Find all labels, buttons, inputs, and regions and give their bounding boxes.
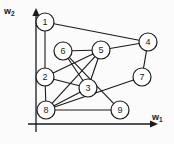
graph-node-6[interactable]: 6 xyxy=(54,42,72,60)
node-label-3: 3 xyxy=(85,83,90,93)
x-axis-label: w1 xyxy=(152,112,163,123)
graph-edge-4-7 xyxy=(144,51,147,68)
graph-edge-5-4 xyxy=(110,44,139,49)
nodes-group: 123456789 xyxy=(36,13,157,119)
graph-node-4[interactable]: 4 xyxy=(139,33,157,51)
node-label-6: 6 xyxy=(60,46,65,56)
x-axis-label-sub: 1 xyxy=(159,116,163,123)
graph-node-7[interactable]: 7 xyxy=(133,68,151,86)
node-label-7: 7 xyxy=(139,72,144,82)
node-label-4: 4 xyxy=(145,37,150,47)
edges-group xyxy=(45,24,146,110)
graph-node-8[interactable]: 8 xyxy=(37,101,55,119)
graph-edge-2-3 xyxy=(54,79,80,86)
y-axis-label-main: w xyxy=(4,6,11,16)
y-axis-label-sub: 2 xyxy=(11,10,15,17)
graph-node-2[interactable]: 2 xyxy=(36,68,54,86)
y-axis-arrow xyxy=(32,8,39,16)
node-label-9: 9 xyxy=(117,105,122,115)
graph-edge-5-3 xyxy=(91,59,98,80)
graph-edge-6-5 xyxy=(72,50,92,51)
node-label-1: 1 xyxy=(42,17,47,27)
graph-edge-8-3 xyxy=(54,92,80,106)
graph-node-9[interactable]: 9 xyxy=(111,101,129,119)
graph-node-5[interactable]: 5 xyxy=(92,41,110,59)
node-label-8: 8 xyxy=(43,105,48,115)
graph-edge-1-4 xyxy=(54,24,139,41)
graph-node-3[interactable]: 3 xyxy=(79,79,97,97)
y-axis-label: w2 xyxy=(4,6,15,17)
graph-diagram: 123456789 w2 w1 xyxy=(0,0,174,144)
graph-canvas: 123456789 xyxy=(0,0,174,144)
x-axis-label-main: w xyxy=(152,112,159,122)
node-label-5: 5 xyxy=(98,45,103,55)
graph-node-1[interactable]: 1 xyxy=(36,13,54,31)
node-label-2: 2 xyxy=(42,72,47,82)
